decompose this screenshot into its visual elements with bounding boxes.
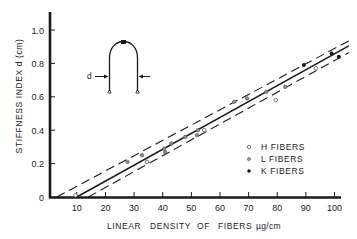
x-tick-label: 60 — [215, 203, 225, 213]
y-tick-label: 0.6 — [31, 92, 44, 102]
data-point-filled-circle — [302, 63, 306, 67]
data-point-gray-circle — [196, 128, 200, 132]
x-tick-label: 80 — [272, 203, 282, 213]
inset-loop-diagram: d — [87, 40, 150, 93]
left-foot-icon — [108, 90, 111, 94]
y-tick-label: 1.0 — [31, 26, 44, 36]
legend-label-l: L FIBERS — [261, 154, 303, 164]
legend-marker-k-icon — [247, 169, 251, 173]
x-tick-label: 100 — [327, 203, 342, 213]
right-foot-icon — [136, 90, 139, 94]
data-point-open-circle — [202, 128, 206, 132]
data-point-gray-circle — [245, 97, 249, 101]
x-axis-unit: µg/cm — [256, 221, 281, 231]
chart: 00.20.40.60.81.0 102030405060708090100 S… — [0, 0, 357, 239]
data-point-filled-circle — [330, 51, 334, 55]
y-tick-label: 0.2 — [31, 159, 44, 169]
y-tick-label: 0.4 — [31, 126, 44, 136]
legend-marker-h-icon — [247, 145, 250, 148]
x-tick-label: 40 — [158, 203, 168, 213]
y-tick-label: 0.8 — [31, 59, 44, 69]
legend-marker-l-icon — [247, 157, 250, 160]
data-point-gray-circle — [140, 153, 144, 157]
data-point-gray-circle — [126, 160, 130, 164]
x-axis-title-word: DENSITY — [150, 221, 191, 231]
x-axis-title: LINEAR DENSITY OF FIBERS µg/cm — [107, 221, 281, 231]
y-axis-title: STIFFNESS INDEX d (cm) — [14, 39, 24, 154]
data-point-gray-circle — [195, 133, 199, 137]
x-tick-label: 20 — [100, 203, 110, 213]
data-point-open-circle — [314, 67, 318, 71]
x-axis-title-word: FIBERS — [218, 221, 252, 231]
weight-icon — [121, 40, 126, 44]
data-point-filled-circle — [337, 55, 341, 59]
right-arrowhead-icon — [139, 75, 144, 79]
data-point-gray-circle — [170, 142, 174, 146]
legend-label-h: H FIBERS — [261, 142, 305, 152]
x-axis-title-word: OF — [197, 221, 210, 231]
y-tick-label: 0 — [39, 193, 44, 203]
regression-line — [77, 46, 349, 197]
legend: H FIBERS L FIBERS K FIBERS — [247, 142, 305, 176]
y-ticks: 00.20.40.60.81.0 — [31, 26, 55, 203]
d-label: d — [87, 71, 92, 81]
x-tick-label: 70 — [244, 203, 254, 213]
data-point-gray-circle — [184, 135, 188, 139]
x-axis-title-word: LINEAR — [107, 221, 141, 231]
left-arrowhead-icon — [104, 75, 109, 79]
data-point-gray-circle — [163, 150, 167, 154]
x-tick-label: 50 — [186, 203, 196, 213]
data-point-gray-circle — [162, 147, 166, 151]
fiber-loop — [110, 42, 138, 92]
data-point-gray-circle — [283, 85, 287, 89]
data-point-open-circle — [74, 194, 78, 198]
x-tick-label: 10 — [72, 203, 82, 213]
x-tick-label: 90 — [301, 203, 311, 213]
data-point-open-circle — [145, 160, 149, 164]
confidence-line-lower-bound — [88, 53, 349, 197]
data-point-open-circle — [274, 98, 278, 102]
x-ticks: 102030405060708090100 — [72, 192, 342, 213]
legend-label-k: K FIBERS — [261, 166, 305, 176]
data-point-gray-circle — [265, 90, 269, 94]
data-point-gray-circle — [232, 100, 236, 104]
x-tick-label: 30 — [129, 203, 139, 213]
